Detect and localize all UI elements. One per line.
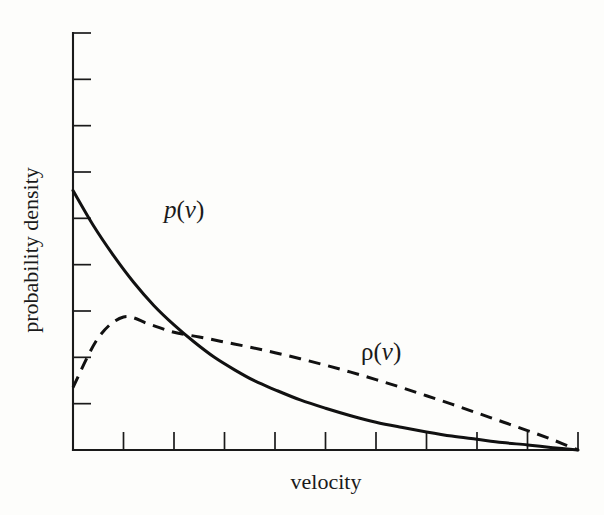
chart-canvas: p(v) ρ(v) velocity probability density: [0, 0, 604, 515]
y-axis-ticks: [73, 33, 91, 450]
x-axis-label: velocity: [291, 469, 362, 494]
annotation-rho-symbol: ρ: [361, 338, 373, 365]
x-axis-ticks: [73, 432, 578, 450]
chart-figure: p(v) ρ(v) velocity probability density: [0, 0, 604, 515]
annotation-p-symbol: p: [162, 196, 177, 223]
series-line-rho-of-v: [73, 317, 578, 450]
y-axis-label: probability density: [18, 167, 43, 333]
annotation-rho-of-v: ρ(v): [361, 338, 401, 366]
annotation-p-of-v: p(v): [162, 196, 204, 224]
series-line-p-of-v: [73, 191, 578, 450]
